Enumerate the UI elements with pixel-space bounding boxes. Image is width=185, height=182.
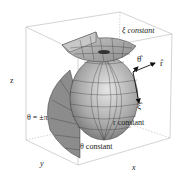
y-axis-label: y [40, 160, 44, 168]
theta-hat-label: θ̂ [137, 55, 141, 64]
xi-constant-surface [62, 32, 136, 62]
theta-pm-pi-label: θ = ±π [27, 114, 48, 122]
x-axis-label: x [132, 164, 136, 172]
r-constant-surface [70, 56, 138, 140]
r-hat-label: r̂ [160, 59, 163, 68]
r-hat-arrow [133, 63, 155, 72]
theta-constant-label: θ constant [80, 143, 113, 151]
z-axis-label: z [10, 77, 14, 85]
xi-constant-label: ξ constant [122, 27, 155, 35]
diagram-canvas [0, 0, 185, 182]
xi-hat-label: ξ̂ [137, 102, 141, 111]
r-constant-label: r constant [113, 119, 144, 127]
